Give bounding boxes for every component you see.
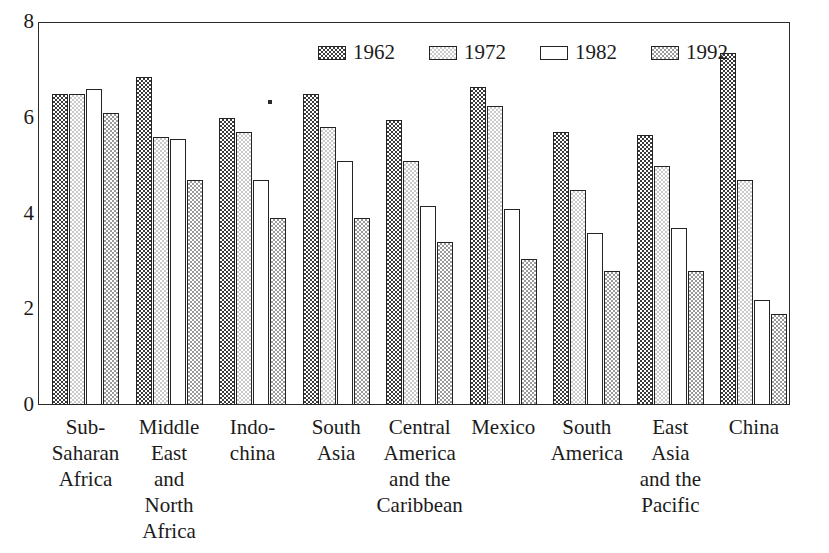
x-category-label-8: China	[706, 414, 802, 440]
y-tick-label: 8	[6, 11, 34, 32]
legend-entry-1972: 1972	[429, 42, 506, 63]
bar-chart: 02468 1962197219821992 Sub-SaharanAfrica…	[0, 0, 829, 553]
bar-1982-2	[253, 180, 269, 405]
bar-1972-3	[320, 127, 336, 405]
bar-1982-6	[587, 233, 603, 405]
bar-group	[386, 22, 453, 405]
bar-1982-7	[671, 228, 687, 405]
x-category-label-0: Sub-SaharanAfrica	[38, 414, 134, 492]
legend-swatch-icon	[429, 46, 457, 60]
bar-1972-2	[236, 132, 252, 405]
bar-1992-6	[604, 271, 620, 405]
bar-group	[470, 22, 537, 405]
x-category-label-7: EastAsiaand thePacific	[622, 414, 718, 518]
bar-group	[219, 22, 286, 405]
y-tick-label: 2	[6, 298, 34, 319]
bar-1982-1	[170, 139, 186, 405]
x-category-label-1: MiddleEastandNorthAfrica	[121, 414, 217, 544]
bar-1992-2	[270, 218, 286, 405]
y-axis: 02468	[0, 0, 34, 553]
legend-swatch-icon	[318, 46, 346, 60]
legend-swatch-icon	[540, 46, 568, 60]
bar-1982-4	[420, 206, 436, 405]
bar-1992-5	[521, 259, 537, 405]
legend-label: 1972	[464, 42, 506, 63]
bar-1992-0	[103, 113, 119, 405]
x-axis-category-labels: Sub-SaharanAfricaMiddleEastandNorthAfric…	[38, 414, 790, 553]
bar-1992-7	[688, 271, 704, 405]
x-category-label-4: CentralAmericaand theCaribbean	[372, 414, 468, 518]
bar-group	[303, 22, 370, 405]
bar-1972-6	[570, 190, 586, 405]
legend-swatch-icon	[651, 46, 679, 60]
bar-1962-6	[553, 132, 569, 405]
bar-1972-0	[69, 94, 85, 405]
y-tick-label: 6	[6, 107, 34, 128]
x-category-label-6: SouthAmerica	[539, 414, 635, 466]
scan-artifact-speck	[268, 100, 272, 104]
bar-1992-3	[354, 218, 370, 405]
bar-1992-8	[771, 314, 787, 405]
legend-label: 1962	[353, 42, 395, 63]
bar-1972-4	[403, 161, 419, 405]
legend-entry-1982: 1982	[540, 42, 617, 63]
bar-group	[720, 22, 787, 405]
legend-entry-1962: 1962	[318, 42, 395, 63]
bar-1962-4	[386, 120, 402, 405]
bar-1982-5	[504, 209, 520, 405]
bar-1962-5	[470, 87, 486, 405]
bar-group	[637, 22, 704, 405]
bar-1962-1	[136, 77, 152, 405]
y-tick-label: 4	[6, 203, 34, 224]
bar-group	[553, 22, 620, 405]
legend-label: 1982	[575, 42, 617, 63]
bar-1962-8	[720, 53, 736, 405]
plot-area	[38, 22, 790, 405]
bar-1982-3	[337, 161, 353, 405]
bar-1992-4	[437, 242, 453, 405]
bar-1972-5	[487, 106, 503, 405]
x-category-label-2: Indo-china	[205, 414, 301, 466]
x-category-label-3: SouthAsia	[288, 414, 384, 466]
legend-label: 1992	[686, 42, 728, 63]
bar-1962-0	[52, 94, 68, 405]
bar-1962-7	[637, 135, 653, 405]
x-category-label-5: Mexico	[455, 414, 551, 440]
bar-group	[136, 22, 203, 405]
bar-1982-8	[754, 300, 770, 405]
bar-1962-3	[303, 94, 319, 405]
legend-entry-1992: 1992	[651, 42, 728, 63]
bar-group	[52, 22, 119, 405]
bar-1972-7	[654, 166, 670, 405]
bar-1972-8	[737, 180, 753, 405]
y-tick-label: 0	[6, 394, 34, 415]
bar-1972-1	[153, 137, 169, 405]
chart-legend: 1962197219821992	[318, 42, 728, 63]
bar-1962-2	[219, 118, 235, 405]
bar-1982-0	[86, 89, 102, 405]
bar-1992-1	[187, 180, 203, 405]
